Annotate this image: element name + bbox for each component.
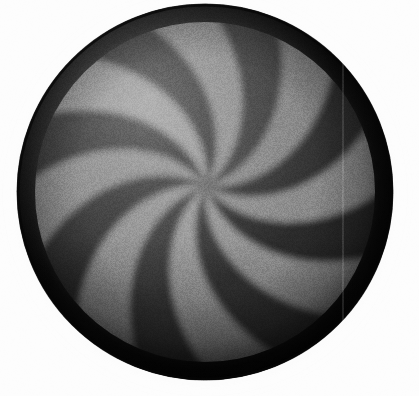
screenshot-canvas: Grayscale spinning pinwheel wait cursor (0, 0, 419, 396)
spinning-wait-cursor (0, 0, 419, 396)
